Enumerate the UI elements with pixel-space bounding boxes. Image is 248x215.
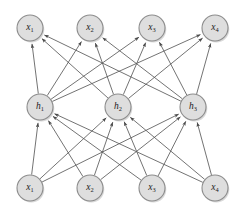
node-out-x1[interactable]: x1: [17, 15, 44, 43]
network-diagram-canvas: x1x2x3x4h1h2h3x1x2x3x4: [0, 0, 248, 215]
edge-hid-h2-to-out-x4: [128, 38, 202, 98]
edge-in-x2-to-hid-h1: [48, 121, 83, 177]
edge-in-x3-to-hid-h2: [124, 122, 147, 176]
edge-in-x1-to-hid-h1: [32, 123, 38, 175]
edge-hid-h3-to-out-x3: [159, 42, 186, 95]
node-hid-h1[interactable]: h1: [27, 94, 54, 122]
nodes-group: x1x2x3x4h1h2h3x1x2x3x4: [17, 15, 229, 203]
node-in-x4[interactable]: x4: [202, 175, 229, 203]
node-out-x2[interactable]: x2: [77, 15, 104, 43]
node-out-x4[interactable]: x4: [202, 15, 229, 43]
node-out-x3[interactable]: x3: [139, 15, 166, 43]
network-diagram: x1x2x3x4h1h2h3x1x2x3x4: [0, 0, 248, 215]
edge-hid-h3-to-out-x4: [197, 43, 211, 94]
edge-hid-h3-to-out-x2: [103, 38, 183, 99]
node-hid-h3[interactable]: h3: [180, 94, 207, 122]
edge-hid-h2-to-out-x2: [95, 43, 113, 94]
edge-hid-h1-to-out-x2: [47, 42, 81, 96]
node-in-x3[interactable]: x3: [139, 175, 166, 203]
node-in-x1[interactable]: x1: [17, 175, 44, 203]
node-hid-h2[interactable]: h2: [105, 94, 132, 122]
edge-hid-h1-to-out-x1: [32, 44, 38, 94]
edge-in-x4-to-hid-h3: [197, 122, 211, 175]
edge-in-x4-to-hid-h1: [55, 114, 203, 183]
node-in-x2[interactable]: x2: [77, 175, 104, 203]
